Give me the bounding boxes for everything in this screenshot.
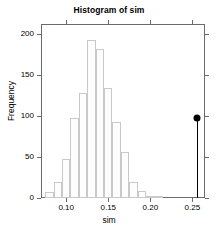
y-tick-mark-right [205,116,209,117]
x-tick-mark [108,198,109,202]
histogram-bar [62,159,70,198]
x-tick-mark-top [150,20,151,24]
x-tick-label: 0.25 [177,203,207,212]
histogram-figure: Histogram of sim 0.100.150.200.250501001… [0,0,218,230]
histogram-bar [96,49,104,198]
x-tick-mark-top [108,20,109,24]
histogram-bar [45,192,53,198]
y-tick-mark-right [205,34,209,35]
histogram-bar [70,118,78,198]
x-tick-mark-top [66,20,67,24]
y-tick-mark-right [205,75,209,76]
histogram-bar [129,182,137,198]
histogram-bar [104,88,112,198]
y-tick-label: 200 [4,29,34,38]
page-title: Histogram of sim [0,5,218,15]
y-tick-mark [37,157,41,158]
y-tick-mark [37,116,41,117]
y-axis-label: Frequency [6,61,16,141]
histogram-bar [121,152,129,198]
histogram-bar [155,196,163,198]
x-tick-label: 0.20 [135,203,165,212]
y-tick-label: 50 [4,152,34,161]
observed-value-marker-stem [197,118,198,198]
histogram-bar [79,93,87,198]
y-tick-mark [37,198,41,199]
y-tick-mark [37,75,41,76]
x-tick-label: 0.15 [93,203,123,212]
y-tick-mark [37,34,41,35]
histogram-bar [112,122,120,198]
histogram-bar [87,40,95,198]
x-tick-label: 0.10 [51,203,81,212]
observed-value-marker-dot [194,115,201,122]
x-tick-mark [150,198,151,202]
x-tick-mark [192,198,193,202]
x-tick-mark [66,198,67,202]
plot-area [41,24,205,198]
histogram-bar [138,191,146,198]
histogram-bar [54,182,62,198]
y-tick-label: 0 [4,193,34,202]
x-tick-mark-top [192,20,193,24]
y-tick-mark-right [205,157,209,158]
y-tick-mark-right [205,198,209,199]
x-axis-label: sim [0,215,218,225]
